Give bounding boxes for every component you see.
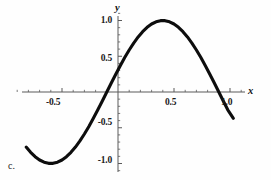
x-tick-label-1: 1.0 [221, 97, 232, 107]
x-axis-ticks [17, 88, 241, 92]
plot-figure: y x 1.0 0.5 -0.5 -1.0 -0.5 0.5 1.0 c. [0, 0, 271, 180]
y-tick-label-1: 1.0 [88, 15, 112, 25]
y-tick-label-neg05: -0.5 [88, 117, 112, 127]
x-tick-label-neg05: -0.5 [46, 97, 60, 107]
y-axis-label: y [115, 2, 120, 13]
y-tick-label-05: 0.5 [88, 53, 112, 63]
plot-canvas [0, 0, 271, 180]
y-tick-label-neg1: -1.0 [88, 155, 112, 165]
x-axis-label: x [248, 85, 253, 96]
panel-label: c. [8, 160, 15, 171]
x-tick-label-05: 0.5 [165, 97, 176, 107]
axis-group [22, 16, 245, 172]
